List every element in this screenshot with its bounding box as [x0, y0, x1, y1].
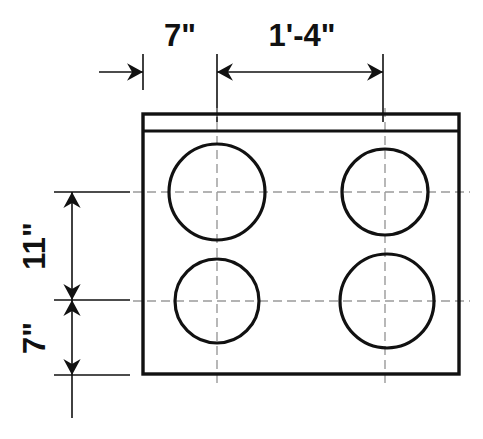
center-lines-group [133, 108, 470, 384]
drawing-canvas: 7" 1'-4" 11" 7" [0, 0, 483, 439]
top-dimension-label-7in: 7" [164, 18, 196, 53]
left-dimension-label-11in: 11" [17, 222, 52, 269]
top-dimension-label-1ft4in: 1'-4" [269, 18, 336, 53]
technical-drawing: 7" 1'-4" 11" 7" [0, 0, 483, 439]
left-dimension-label-7in: 7" [17, 322, 52, 354]
top-dimension-group: 7" 1'-4" [99, 18, 383, 122]
left-dimension-group: 11" 7" [17, 192, 130, 418]
holes-group [169, 144, 434, 348]
